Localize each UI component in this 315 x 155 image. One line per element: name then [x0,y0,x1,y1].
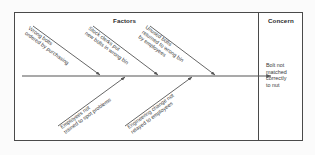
fishbone-diagram-canvas: Factors Concern Wrong bolts ordered by p… [0,0,315,155]
concern-text: Bolt not matched correctly to nut [266,62,302,88]
